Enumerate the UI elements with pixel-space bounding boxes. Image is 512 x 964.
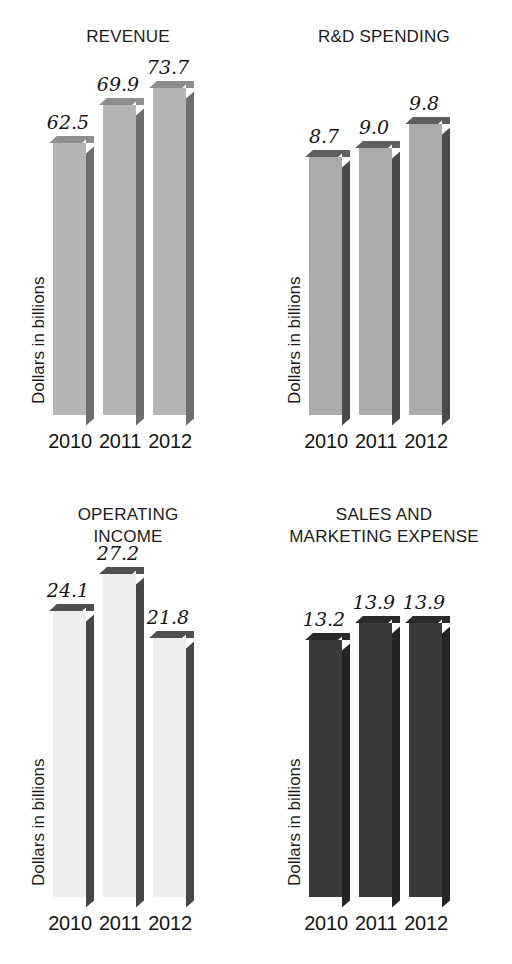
bar-front-face bbox=[359, 148, 392, 415]
bar-top-face bbox=[355, 616, 396, 623]
bar-top-face bbox=[305, 633, 346, 640]
x-label-2012: 2012 bbox=[396, 912, 456, 934]
chart-title-operating-income-line1: OPERATING bbox=[0, 504, 256, 526]
bar-top-face bbox=[49, 604, 90, 611]
bar-front-face bbox=[409, 623, 442, 897]
bar-side-face bbox=[86, 146, 94, 425]
bar-value-label: 73.7 bbox=[138, 58, 198, 77]
bar-top-cap bbox=[342, 150, 350, 157]
x-label-2012: 2012 bbox=[140, 912, 200, 934]
bar-revenue-2010[interactable] bbox=[53, 143, 86, 415]
bar-front-face bbox=[53, 143, 86, 415]
bar-revenue-2011[interactable] bbox=[103, 105, 136, 415]
bar-value-label: 21.8 bbox=[138, 608, 198, 627]
bar-top-face bbox=[305, 150, 346, 157]
bar-top-cap bbox=[442, 616, 450, 623]
bar-top-face bbox=[99, 98, 140, 105]
bar-top-cap bbox=[86, 136, 94, 143]
bar-front-face bbox=[153, 88, 186, 415]
y-axis-label-operating-income: Dollars in billions bbox=[30, 758, 47, 886]
bar-side-face bbox=[392, 626, 400, 907]
bar-top-cap bbox=[136, 567, 144, 574]
bar-front-face bbox=[359, 623, 392, 897]
bar-value-label: 13.2 bbox=[294, 610, 354, 629]
x-label-2012: 2012 bbox=[140, 430, 200, 452]
bar-rd-2012[interactable] bbox=[409, 124, 442, 415]
bar-front-face bbox=[103, 574, 136, 897]
bar-top-cap bbox=[392, 141, 400, 148]
bar-top-cap bbox=[342, 633, 350, 640]
bar-top-cap bbox=[136, 98, 144, 105]
y-axis-label-sales-marketing: Dollars in billions bbox=[286, 758, 303, 886]
bar-top-cap bbox=[392, 616, 400, 623]
y-axis-label-revenue: Dollars in billions bbox=[30, 276, 47, 404]
bar-top-face bbox=[405, 616, 446, 623]
bar-side-face bbox=[392, 151, 400, 425]
bar-top-face bbox=[149, 631, 190, 638]
bar-side-face bbox=[342, 160, 350, 425]
chart-title-sales-marketing-line2: MARKETING EXPENSE bbox=[256, 526, 512, 548]
bar-side-face bbox=[136, 108, 144, 425]
bar-value-label: 9.0 bbox=[344, 118, 404, 137]
bar-rd-2010[interactable] bbox=[309, 157, 342, 415]
bar-value-label: 62.5 bbox=[38, 113, 98, 132]
bar-front-face bbox=[53, 611, 86, 897]
bar-sales-marketing-2011[interactable] bbox=[359, 623, 392, 897]
bar-side-face bbox=[342, 643, 350, 907]
bar-side-face bbox=[86, 614, 94, 907]
bar-front-face bbox=[309, 157, 342, 415]
bar-revenue-2012[interactable] bbox=[153, 88, 186, 415]
chart-title-revenue: REVENUE bbox=[0, 26, 256, 48]
chart-panel-operating-income: OPERATING INCOME Dollars in billions 24.… bbox=[0, 482, 256, 964]
bar-sales-marketing-2012[interactable] bbox=[409, 623, 442, 897]
chart-panel-sales-marketing-expense: SALES AND MARKETING EXPENSE Dollars in b… bbox=[256, 482, 512, 964]
chart-title-sales-marketing-line1: SALES AND bbox=[256, 504, 512, 526]
y-axis-label-rd-spending: Dollars in billions bbox=[286, 276, 303, 404]
bar-front-face bbox=[309, 640, 342, 897]
bar-operating-income-2010[interactable] bbox=[53, 611, 86, 897]
bar-top-face bbox=[405, 117, 446, 124]
bar-operating-income-2011[interactable] bbox=[103, 574, 136, 897]
bar-side-face bbox=[186, 91, 194, 425]
bar-sales-marketing-2010[interactable] bbox=[309, 640, 342, 897]
chart-panel-revenue: REVENUE Dollars in billions 62.5 69.9 73… bbox=[0, 0, 256, 482]
bar-top-cap bbox=[186, 81, 194, 88]
bar-operating-income-2012[interactable] bbox=[153, 638, 186, 897]
x-label-2012: 2012 bbox=[396, 430, 456, 452]
bar-side-face bbox=[442, 127, 450, 425]
bar-top-cap bbox=[86, 604, 94, 611]
bar-front-face bbox=[409, 124, 442, 415]
bar-side-face bbox=[442, 626, 450, 907]
bar-value-label: 27.2 bbox=[88, 544, 148, 563]
bar-value-label: 24.1 bbox=[38, 581, 98, 600]
bar-front-face bbox=[103, 105, 136, 415]
bar-value-label: 9.8 bbox=[394, 94, 454, 113]
bar-top-face bbox=[149, 81, 190, 88]
bar-top-face bbox=[49, 136, 90, 143]
bar-top-face bbox=[355, 141, 396, 148]
bar-top-cap bbox=[186, 631, 194, 638]
multi-chart-figure: REVENUE Dollars in billions 62.5 69.9 73… bbox=[0, 0, 512, 964]
bar-side-face bbox=[186, 641, 194, 907]
chart-panel-rd-spending: R&D SPENDING Dollars in billions 8.7 9.0… bbox=[256, 0, 512, 482]
bar-value-label: 69.9 bbox=[88, 75, 148, 94]
bar-value-label: 13.9 bbox=[394, 593, 454, 612]
bar-front-face bbox=[153, 638, 186, 897]
bar-rd-2011[interactable] bbox=[359, 148, 392, 415]
bar-top-cap bbox=[442, 117, 450, 124]
chart-title-rd-spending: R&D SPENDING bbox=[256, 26, 512, 48]
bar-top-face bbox=[99, 567, 140, 574]
